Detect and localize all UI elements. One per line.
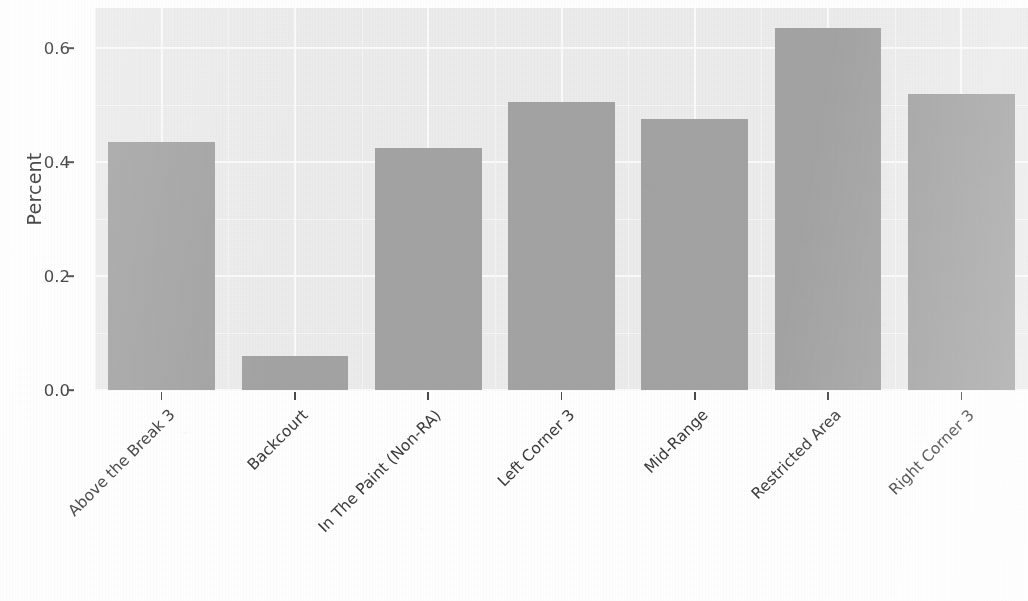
bar-chart: 0.00.20.40.6 Percent Above the Break 3Ba… [0,0,1028,601]
x-axis-tick-label: Mid-Range [641,406,712,477]
x-axis-tick-label: Restricted Area [748,406,845,503]
y-axis-tick-label: 0.6 [8,38,70,57]
bar[interactable] [242,356,349,390]
gridline-vertical-major [294,8,296,390]
x-axis-tick-mark [427,392,429,400]
x-axis-tick-mark [294,392,296,400]
y-axis-tick-mark [67,389,74,391]
bar[interactable] [508,102,615,390]
x-axis-tick-label: Backcourt [244,406,312,474]
x-axis-tick-mark [827,392,829,400]
x-axis-tick-label: Right Corner 3 [885,406,977,498]
y-axis-tick-label: 0.0 [8,381,70,400]
y-axis-tick-mark [67,47,74,49]
gridline-vertical-minor [228,8,229,390]
gridline-vertical-minor [895,8,896,390]
gridline-vertical-minor [761,8,762,390]
bar[interactable] [641,119,748,390]
gridline-vertical-minor [628,8,629,390]
plot-panel [95,8,1028,390]
x-axis-tick-mark [694,392,696,400]
x-axis-tick-mark [161,392,163,400]
gridline-vertical-minor [362,8,363,390]
y-axis: 0.00.20.40.6 [0,0,70,601]
y-axis-tick-mark [67,161,74,163]
y-axis-tick-label: 0.2 [8,266,70,285]
x-axis-tick-label: Left Corner 3 [494,406,578,490]
x-axis-tick-label: In The Paint (Non-RA) [315,406,445,536]
y-axis-title: Percent [23,109,45,269]
y-axis-tick-mark [67,275,74,277]
x-axis-tick-mark [561,392,563,400]
x-axis-tick-label: Above the Break 3 [65,406,179,520]
bar[interactable] [908,94,1015,390]
gridline-vertical-minor [495,8,496,390]
bar[interactable] [108,142,215,390]
bar[interactable] [775,28,882,390]
bar[interactable] [375,148,482,390]
chart-title-cropped [0,0,1028,8]
x-axis-tick-mark [961,392,963,400]
gridline-vertical-minor [95,8,96,390]
